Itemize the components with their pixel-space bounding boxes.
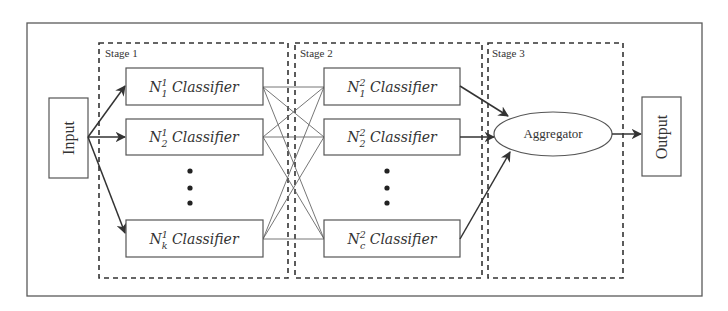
classifier-pipeline-diagram: Stage 1 Stage 2 Stage 3 Input N11 Classi… — [0, 0, 728, 311]
stage-3-label: Stage 3 — [492, 47, 525, 59]
classifier-n1-1: N11 Classifier — [126, 68, 263, 105]
output-node: Output — [642, 97, 681, 176]
input-edges — [88, 86, 125, 233]
output-label: Output — [653, 114, 671, 159]
aggregator-edges — [460, 86, 510, 239]
ellipsis-stage-1 — [187, 168, 192, 205]
classifier-n1-2: N12 Classifier — [126, 119, 263, 155]
ellipsis-stage-2 — [384, 168, 389, 205]
classifier-n1-k: N1k Classifier — [126, 220, 263, 257]
stage-1-label: Stage 1 — [105, 47, 138, 59]
stage-3-box — [488, 43, 623, 278]
stage-2-label: Stage 2 — [300, 47, 333, 59]
aggregator-label: Aggregator — [523, 126, 583, 141]
input-node: Input — [49, 98, 88, 178]
classifier-n2-c: N2c Classifier — [324, 220, 460, 257]
stage-1-to-stage-2-edges — [263, 87, 324, 239]
classifier-n2-1: N21 Classifier — [324, 68, 460, 105]
classifier-n2-2: N22 Classifier — [324, 119, 460, 155]
aggregator-node: Aggregator — [494, 112, 612, 156]
input-label: Input — [60, 121, 78, 155]
